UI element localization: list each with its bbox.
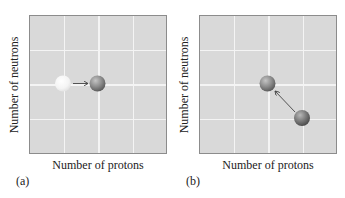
nucleus-initial-white [55, 76, 71, 92]
nucleus-final-gray [260, 76, 276, 92]
nucleus-diagram-b [199, 15, 337, 154]
panel-a: Number of neutrons Number [0, 0, 172, 198]
x-axis-label: Number of protons [52, 158, 143, 173]
panel-label: (b) [186, 174, 200, 189]
nucleus-initial-gray [294, 110, 310, 126]
panel-b: Number of neutrons Number [170, 0, 342, 198]
x-axis-label: Number of protons [222, 158, 313, 173]
arrow-icon [275, 91, 295, 112]
nucleus-diagram-a [29, 15, 167, 154]
nucleus-final-gray [90, 76, 106, 92]
y-axis-label: Number of neutrons [177, 37, 192, 134]
y-axis-label: Number of neutrons [7, 37, 22, 134]
panel-label: (a) [16, 174, 29, 189]
